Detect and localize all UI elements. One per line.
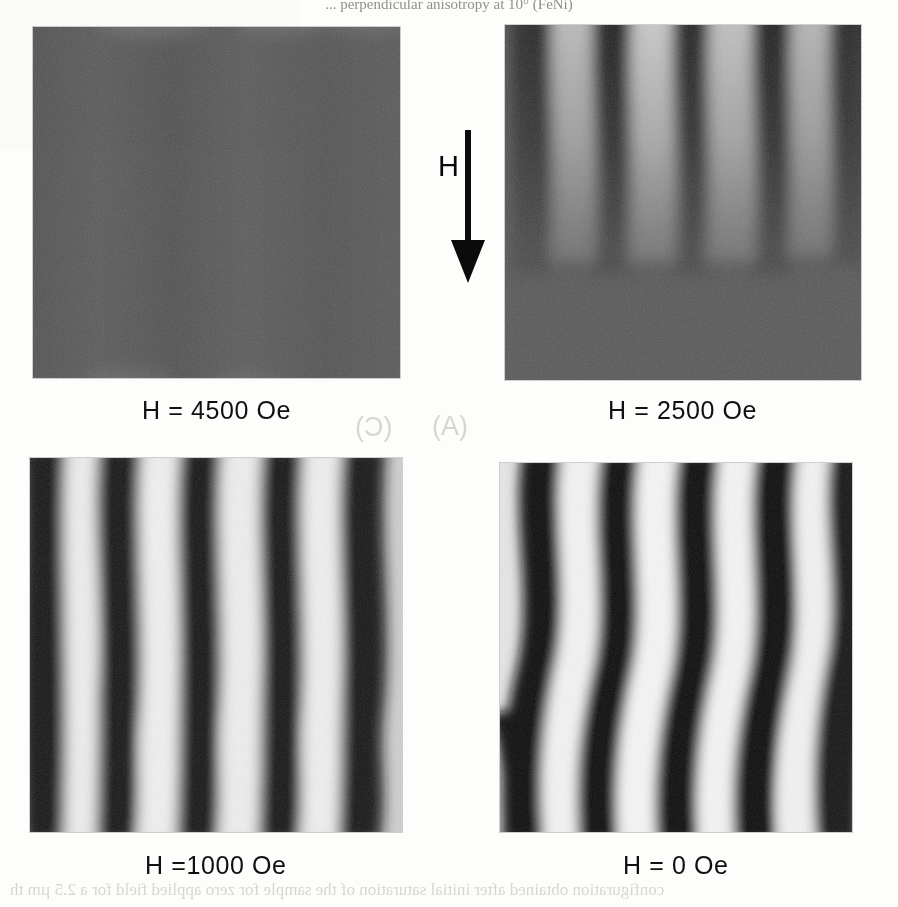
panel-caption-d: H = 0 Oe xyxy=(623,851,729,880)
panel-caption-c: H =1000 Oe xyxy=(145,851,287,880)
domain-image-panel-a xyxy=(33,27,400,378)
panel-caption-a: H = 4500 Oe xyxy=(142,396,291,425)
domain-image-panel-d xyxy=(500,463,852,832)
domain-image-panel-c xyxy=(30,458,402,832)
bleed-through-letter-a: (A) xyxy=(432,411,468,442)
panel-caption-b: H = 2500 Oe xyxy=(608,396,757,425)
domain-image-panel-b xyxy=(505,25,861,380)
bleed-through-letter-c: (C) xyxy=(355,412,392,443)
figure-root: ... perpendicular anisotropy at 10° (FeN… xyxy=(0,0,898,907)
cropped-header-text: ... perpendicular anisotropy at 10° (FeN… xyxy=(0,0,898,13)
applied-field-label: H xyxy=(438,150,459,183)
bleed-through-caption: configuration obtained after initial sat… xyxy=(10,880,664,900)
